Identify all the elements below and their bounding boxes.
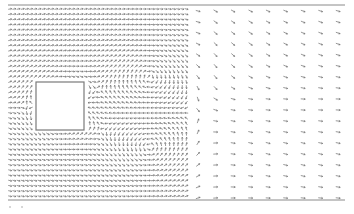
square-obstacle <box>36 82 84 130</box>
axis-ticks <box>10 206 22 208</box>
vector-field-plot <box>0 0 354 214</box>
